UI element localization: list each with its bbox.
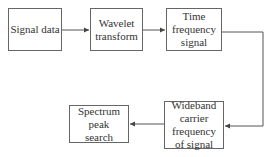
arrow-timefreq-to-wideband (222, 32, 263, 126)
node-spectrum-peak-search: Spectrum peak search (69, 105, 129, 143)
node-label: Wavelet transform (95, 17, 138, 43)
node-label: Signal data (10, 23, 59, 36)
node-wavelet-transform: Wavelet transform (90, 8, 143, 51)
node-signal-data: Signal data (8, 8, 62, 51)
node-wideband-carrier-frequency: Wideband carrier frequency of signal (164, 101, 224, 149)
node-time-frequency-signal: Time frequency signal (166, 8, 222, 51)
node-label: Wideband carrier frequency of signal (168, 99, 220, 151)
node-label: Time frequency signal (171, 10, 217, 49)
node-label: Spectrum peak search (76, 105, 122, 144)
